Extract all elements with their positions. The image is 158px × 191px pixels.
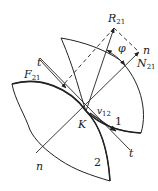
label-t-bottom: t — [129, 148, 133, 159]
label-K: K — [78, 119, 86, 130]
label-n-top: n — [143, 45, 150, 56]
label-R21: R21 — [108, 13, 125, 26]
label-body-1: 1 — [115, 116, 122, 127]
label-phi: φ — [118, 43, 126, 54]
label-F21: F21 — [24, 69, 41, 82]
normal-line — [36, 52, 139, 153]
label-body-2: 2 — [94, 157, 101, 168]
label-n-bottom: n — [36, 161, 43, 172]
label-t-top: t — [37, 57, 41, 68]
friction-diagram: R21 φ n N21 t F21 K v12 1 t 2 n — [0, 0, 158, 191]
resultant-force-arrow — [86, 28, 114, 111]
body-1-outline — [61, 38, 143, 133]
dashed-line-R-F — [64, 28, 114, 84]
diagram-canvas — [0, 0, 158, 191]
label-v12: v12 — [97, 107, 111, 118]
label-N21: N21 — [137, 58, 156, 71]
